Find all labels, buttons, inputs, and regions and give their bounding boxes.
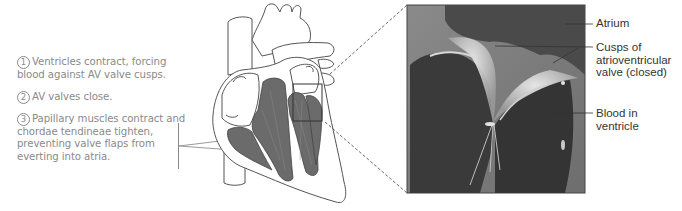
label-atrium: Atrium	[596, 17, 629, 30]
label-blood: Blood in ventricle	[596, 107, 639, 132]
heart-diagram	[0, 0, 682, 211]
label-cusps: Cusps of atrioventricular valve (closed)	[596, 41, 671, 79]
valve-inset	[407, 5, 593, 193]
label-cusps-line-1: Cusps of	[596, 41, 671, 54]
label-blood-line-1: Blood in	[596, 107, 639, 120]
label-cusps-line-3: valve (closed)	[596, 66, 671, 79]
label-blood-line-2: ventricle	[596, 120, 639, 133]
label-cusps-line-2: atrioventricular	[596, 54, 671, 67]
